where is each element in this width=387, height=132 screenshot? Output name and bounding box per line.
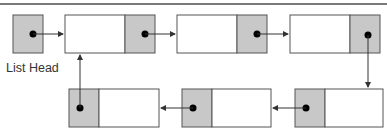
pointer-field [69, 89, 99, 127]
data-field [290, 15, 350, 53]
node-5 [182, 89, 271, 127]
node-1 [65, 15, 155, 53]
node-6 [69, 89, 159, 127]
data-field [212, 89, 271, 127]
node-4 [295, 89, 383, 127]
data-field [177, 15, 237, 53]
list-head-label: List Head [6, 61, 59, 75]
data-field [65, 15, 125, 53]
node-2 [177, 15, 267, 53]
node-3 [290, 15, 380, 53]
data-field [325, 89, 383, 127]
data-field [99, 89, 159, 127]
